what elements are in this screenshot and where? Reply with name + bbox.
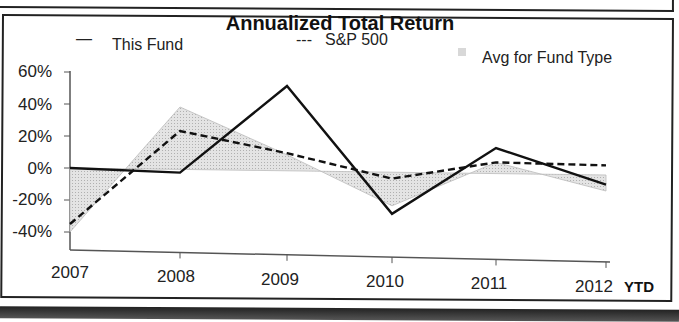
y-tick-60: 60%: [18, 62, 52, 81]
legend-this-fund: This Fund: [112, 36, 183, 53]
y-axis-labels: 60% 40% 20% 0% -20% -40%: [12, 62, 52, 241]
x-tick-2008: 2008: [157, 267, 195, 286]
x-tick-2007: 2007: [51, 263, 89, 282]
plot-area: [64, 71, 610, 268]
x-tick-2009: 2009: [261, 270, 299, 289]
legend-avg-swatch: [458, 48, 466, 56]
legend-avg: Avg for Fund Type: [482, 49, 612, 66]
y-tick-neg20: -20%: [12, 190, 52, 209]
avg-fund-type-area: [70, 107, 606, 232]
legend-sp500: S&P 500: [325, 31, 388, 48]
legend: — This Fund --- S&P 500 Avg for Fund Typ…: [76, 30, 612, 66]
x-axis: [70, 250, 610, 262]
y-tick-20: 20%: [18, 127, 52, 146]
y-tick-40: 40%: [18, 95, 52, 114]
y-tick-0: 0%: [27, 159, 52, 178]
x-tick-2011: 2011: [471, 274, 508, 293]
legend-this-fund-marker: —: [76, 30, 92, 47]
y-tick-neg40: -40%: [12, 222, 52, 241]
ytd-label: YTD: [624, 278, 654, 295]
x-axis-labels: 2007 2008 2009 2010 2011 2012 YTD: [51, 263, 654, 296]
x-tick-2012: 2012: [575, 277, 613, 296]
x-tick-2010: 2010: [366, 272, 404, 291]
legend-sp500-marker: ---: [296, 31, 312, 48]
